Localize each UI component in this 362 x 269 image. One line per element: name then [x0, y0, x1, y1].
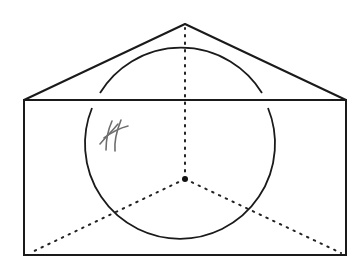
dotted-segment-bottom-left — [30, 179, 185, 253]
circle-upper-arc — [100, 48, 262, 93]
circle-lower-arc — [85, 108, 275, 239]
geometry-diagram — [0, 0, 362, 269]
pencil-hash-mark — [100, 120, 128, 151]
center-point — [182, 176, 188, 182]
